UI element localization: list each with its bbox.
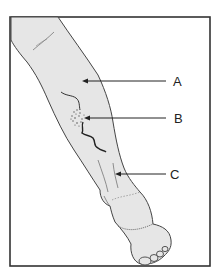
label-a: A: [173, 75, 182, 88]
leg-diagram: [0, 0, 222, 277]
label-c: C: [170, 168, 179, 181]
label-b: B: [174, 112, 183, 125]
